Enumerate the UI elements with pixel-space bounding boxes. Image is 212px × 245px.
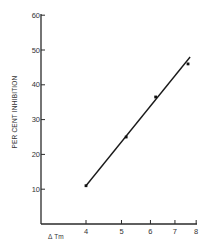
y-ticks: 102030405060 — [32, 11, 45, 194]
fit-line — [86, 57, 190, 186]
x-axis-label: Δ Tm — [48, 233, 64, 240]
y-tick-label: 10 — [32, 185, 40, 194]
data-point — [187, 63, 190, 66]
x-ticks: 45678 — [84, 220, 198, 236]
x-tick-label: 5 — [119, 227, 123, 236]
x-tick-label: 8 — [194, 227, 198, 236]
x-tick-label: 6 — [148, 227, 152, 236]
data-point — [85, 184, 88, 187]
y-tick-label: 30 — [32, 115, 40, 124]
y-axis-label: PER CENT INHIBITION — [11, 75, 18, 148]
x-tick-label: 4 — [84, 227, 88, 236]
y-tick-label: 40 — [32, 80, 40, 89]
chart: 102030405060 45678 Δ Tm PER CENT INHIBIT… — [0, 0, 212, 245]
y-tick-label: 20 — [32, 150, 40, 159]
y-tick-label: 50 — [32, 46, 40, 55]
y-tick-label: 60 — [32, 11, 40, 20]
x-tick-label: 7 — [173, 227, 177, 236]
data-point — [154, 96, 157, 99]
data-point — [125, 136, 128, 139]
